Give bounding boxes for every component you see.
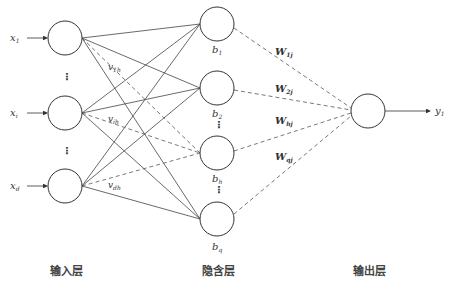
label-y1: y1 <box>434 105 444 117</box>
label-xi: xi <box>10 107 18 119</box>
node-b1 <box>200 7 234 41</box>
label-x1: x1 <box>10 32 19 44</box>
node-xd <box>48 169 82 203</box>
input-bh-dashed-connections <box>82 38 200 186</box>
node-xi <box>48 96 82 130</box>
output-layer-title: 输出层 <box>353 264 386 278</box>
node-b2 <box>200 71 234 105</box>
weight-label-vih: vih <box>108 114 119 125</box>
node-bh <box>200 136 234 170</box>
weight-label-wqj: Wqj <box>275 151 293 164</box>
node-y1 <box>351 94 385 128</box>
input-layer-title: 输入层 <box>50 264 83 278</box>
input-layer-nodes <box>48 21 82 203</box>
node-bq <box>200 202 234 236</box>
weight-label-w2j: W2j <box>275 83 293 96</box>
node-x1 <box>48 21 82 55</box>
weight-label-vdh: vdh <box>108 180 121 191</box>
input-arrows <box>27 38 47 186</box>
label-bq: bq <box>212 241 222 254</box>
input-hidden-connections <box>82 24 200 219</box>
bp-neural-network-diagram: x1 xi xd b1 b2 bh bq y1 ⋮ ⋮ ⋮ ⋮ v1h vih … <box>0 0 450 290</box>
weight-label-v1h: v1h <box>108 62 121 73</box>
label-xd: xd <box>10 180 20 192</box>
weight-label-whj: Whj <box>275 115 294 128</box>
weight-label-w1j: W1j <box>275 46 293 59</box>
label-b1: b1 <box>212 44 222 56</box>
hidden-layer-title: 隐含层 <box>202 264 235 278</box>
hidden-ellipsis-1: ⋮ <box>214 119 224 130</box>
input-ellipsis-1: ⋮ <box>62 71 72 82</box>
hidden-ellipsis-2: ⋮ <box>214 184 224 195</box>
input-ellipsis-2: ⋮ <box>62 145 72 156</box>
